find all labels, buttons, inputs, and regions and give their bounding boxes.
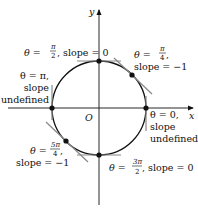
- svg-text:slope: slope: [150, 121, 176, 132]
- diagram-canvas: x y O θ = π 2 , slope: [0, 0, 198, 209]
- svg-text:θ = 0,: θ = 0,: [150, 109, 179, 120]
- svg-text:2: 2: [51, 52, 55, 60]
- svg-text:θ =: θ =: [24, 47, 41, 58]
- svg-text:, slope = 0: , slope = 0: [57, 47, 108, 58]
- svg-text:,: ,: [166, 49, 169, 60]
- y-axis-label: y: [88, 6, 95, 17]
- svg-text:undefined: undefined: [1, 94, 49, 105]
- origin-label: O: [85, 112, 93, 123]
- point-theta-5pi-4: [63, 138, 68, 143]
- label-theta-pi-4: θ = π 4 , slope = −1: [134, 45, 187, 72]
- x-axis-label: x: [189, 110, 195, 121]
- label-theta-5pi-4: θ = 5π 4 , slope = −1: [16, 141, 69, 168]
- svg-text:, slope = 0: , slope = 0: [142, 162, 193, 173]
- svg-text:,: ,: [60, 145, 63, 156]
- point-theta-pi-2: [96, 58, 101, 63]
- svg-text:θ = π,: θ = π,: [20, 70, 49, 81]
- point-theta-pi: [49, 105, 54, 110]
- svg-text:slope: slope: [24, 82, 50, 93]
- svg-text:undefined: undefined: [150, 133, 198, 144]
- svg-text:θ =: θ =: [109, 162, 126, 173]
- svg-text:π: π: [50, 43, 56, 51]
- label-theta-3pi-2: θ = 3π 2 , slope = 0: [109, 158, 193, 176]
- svg-text:π: π: [159, 45, 165, 53]
- point-theta-0: [143, 105, 148, 110]
- svg-text:slope = −1: slope = −1: [134, 61, 187, 72]
- svg-text:slope = −1: slope = −1: [16, 157, 69, 168]
- point-theta-pi-4: [129, 72, 134, 77]
- svg-text:θ =: θ =: [134, 49, 151, 60]
- svg-text:θ =: θ =: [30, 145, 47, 156]
- point-theta-3pi-2: [96, 152, 101, 157]
- unit-circle-tangent-diagram: x y O θ = π 2 , slope: [0, 0, 198, 209]
- svg-text:2: 2: [135, 168, 139, 176]
- label-theta-pi: θ = π, slope undefined: [1, 70, 49, 105]
- label-theta-pi-2: θ = π 2 , slope = 0: [24, 43, 108, 60]
